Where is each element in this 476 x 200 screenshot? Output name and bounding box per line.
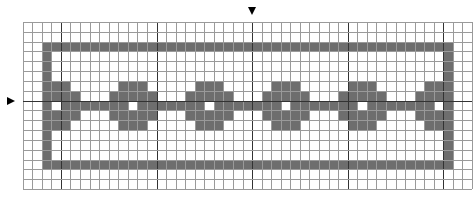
filled-stitch-cell xyxy=(118,110,128,120)
filled-stitch-cell xyxy=(42,51,52,61)
filled-stitch-cell xyxy=(70,91,80,101)
grid-vertical-line xyxy=(271,22,272,189)
filled-stitch-cell xyxy=(214,101,224,111)
grid-vertical-line xyxy=(290,22,291,189)
filled-stitch-cell xyxy=(51,110,61,120)
grid-vertical-line xyxy=(233,22,234,189)
filled-stitch-cell xyxy=(376,160,386,170)
filled-stitch-cell xyxy=(290,101,300,111)
filled-stitch-cell xyxy=(214,91,224,101)
filled-stitch-cell xyxy=(319,42,329,52)
grid-horizontal-line xyxy=(23,22,472,23)
filled-stitch-cell xyxy=(51,81,61,91)
grid-horizontal-line xyxy=(23,71,472,72)
grid-major-vertical-line xyxy=(252,22,253,189)
filled-stitch-cell xyxy=(281,110,291,120)
grid-vertical-line xyxy=(300,22,301,189)
filled-stitch-cell xyxy=(147,91,157,101)
filled-stitch-cell xyxy=(128,81,138,91)
filled-stitch-cell xyxy=(281,160,291,170)
filled-stitch-cell xyxy=(99,42,109,52)
filled-stitch-cell xyxy=(70,101,80,111)
filled-stitch-cell xyxy=(329,101,339,111)
filled-stitch-cell xyxy=(300,42,310,52)
filled-stitch-cell xyxy=(137,101,147,111)
filled-stitch-cell xyxy=(214,160,224,170)
filled-stitch-cell xyxy=(252,160,262,170)
filled-stitch-cell xyxy=(128,110,138,120)
filled-stitch-cell xyxy=(42,91,52,101)
grid-vertical-line xyxy=(367,22,368,189)
filled-stitch-cell xyxy=(329,42,339,52)
filled-stitch-cell xyxy=(443,61,453,71)
filled-stitch-cell xyxy=(271,91,281,101)
filled-stitch-cell xyxy=(367,120,377,130)
filled-stitch-cell xyxy=(424,110,434,120)
filled-stitch-cell xyxy=(443,110,453,120)
filled-stitch-cell xyxy=(42,130,52,140)
filled-stitch-cell xyxy=(338,42,348,52)
grid-major-horizontal-line xyxy=(23,101,472,102)
filled-stitch-cell xyxy=(443,120,453,130)
filled-stitch-cell xyxy=(42,42,52,52)
filled-stitch-cell xyxy=(415,91,425,101)
filled-stitch-cell xyxy=(195,91,205,101)
grid-vertical-line xyxy=(99,22,100,189)
filled-stitch-cell xyxy=(51,160,61,170)
filled-stitch-cell xyxy=(223,101,233,111)
grid-vertical-line xyxy=(405,22,406,189)
filled-stitch-cell xyxy=(443,101,453,111)
grid-horizontal-line xyxy=(23,179,472,180)
filled-stitch-cell xyxy=(367,91,377,101)
filled-stitch-cell xyxy=(204,110,214,120)
filled-stitch-cell xyxy=(338,110,348,120)
filled-stitch-cell xyxy=(348,42,358,52)
filled-stitch-cell xyxy=(281,120,291,130)
grid-vertical-line xyxy=(128,22,129,189)
filled-stitch-cell xyxy=(157,160,167,170)
filled-stitch-cell xyxy=(90,160,100,170)
cross-stitch-chart-grid xyxy=(23,22,472,189)
filled-stitch-cell xyxy=(118,120,128,130)
grid-horizontal-line xyxy=(23,32,472,33)
filled-stitch-cell xyxy=(61,42,71,52)
grid-vertical-line xyxy=(214,22,215,189)
grid-horizontal-line xyxy=(23,51,472,52)
filled-stitch-cell xyxy=(118,160,128,170)
grid-horizontal-line xyxy=(23,160,472,161)
filled-stitch-cell xyxy=(338,91,348,101)
filled-stitch-cell xyxy=(61,91,71,101)
filled-stitch-cell xyxy=(348,120,358,130)
filled-stitch-cell xyxy=(348,160,358,170)
filled-stitch-cell xyxy=(61,160,71,170)
grid-horizontal-line xyxy=(23,189,472,190)
filled-stitch-cell xyxy=(443,91,453,101)
grid-vertical-line xyxy=(32,22,33,189)
filled-stitch-cell xyxy=(42,81,52,91)
filled-stitch-cell xyxy=(415,110,425,120)
filled-stitch-cell xyxy=(176,101,186,111)
filled-stitch-cell xyxy=(376,91,386,101)
grid-vertical-line xyxy=(23,22,24,189)
grid-vertical-line xyxy=(90,22,91,189)
filled-stitch-cell xyxy=(137,81,147,91)
filled-stitch-cell xyxy=(309,101,319,111)
filled-stitch-cell xyxy=(243,160,253,170)
filled-stitch-cell xyxy=(42,120,52,130)
grid-vertical-line xyxy=(147,22,148,189)
filled-stitch-cell xyxy=(233,160,243,170)
filled-stitch-cell xyxy=(195,81,205,91)
filled-stitch-cell xyxy=(70,110,80,120)
filled-stitch-cell xyxy=(329,160,339,170)
filled-stitch-cell xyxy=(300,110,310,120)
grid-vertical-line xyxy=(223,22,224,189)
filled-stitch-cell xyxy=(70,160,80,170)
filled-stitch-cell xyxy=(357,160,367,170)
filled-stitch-cell xyxy=(233,101,243,111)
filled-stitch-cell xyxy=(166,101,176,111)
filled-stitch-cell xyxy=(243,101,253,111)
filled-stitch-cell xyxy=(405,160,415,170)
filled-stitch-cell xyxy=(405,42,415,52)
filled-stitch-cell xyxy=(386,160,396,170)
filled-stitch-cell xyxy=(223,42,233,52)
